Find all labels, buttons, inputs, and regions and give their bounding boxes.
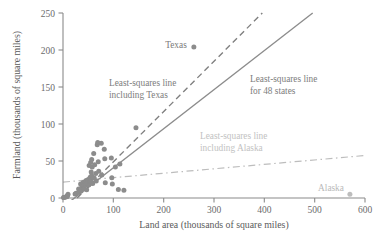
annotation-including-alaska: Least-squares line including Alaska <box>200 131 267 153</box>
y-axis-title: Farmland (thousands of square miles) <box>11 31 23 179</box>
y-tick-label: 100 <box>41 120 56 130</box>
x-axis-title: Land area (thousands of square miles) <box>139 219 288 231</box>
data-point <box>109 156 114 161</box>
data-point <box>99 173 104 178</box>
annotation-line-1: Least-squares line <box>200 131 267 141</box>
x-tick-label: 0 <box>61 205 66 215</box>
data-point <box>110 181 115 186</box>
x-tick-label: 600 <box>358 205 373 215</box>
annotation-48-states: Least-squares line for 48 states <box>250 74 317 96</box>
data-point <box>117 161 122 166</box>
data-point <box>133 125 138 130</box>
annotation-line-2: including Texas <box>109 90 168 100</box>
x-tick-label: 300 <box>207 205 222 215</box>
data-point <box>84 187 89 192</box>
plot-svg: 0 50 100 150 200 250 0 100 200 300 400 5… <box>0 0 381 249</box>
scatter-plot-figure: 0 50 100 150 200 250 0 100 200 300 400 5… <box>0 0 381 249</box>
fit-line-48-states <box>63 13 313 207</box>
data-point <box>89 157 94 162</box>
annotation-line-1: Least-squares line <box>109 78 176 88</box>
point-label-texas: Texas <box>165 40 187 50</box>
annotation-line-1: Least-squares line <box>250 74 317 84</box>
fit-lines-group <box>63 13 365 207</box>
data-point <box>116 187 121 192</box>
data-point <box>121 188 126 193</box>
x-tick-label: 400 <box>257 205 272 215</box>
data-point <box>103 180 108 185</box>
y-tick-label: 150 <box>41 83 56 93</box>
data-point <box>191 45 196 50</box>
x-tick-label: 500 <box>308 205 323 215</box>
annotation-line-2: for 48 states <box>250 86 296 96</box>
data-point <box>91 151 96 156</box>
y-tick-marks <box>59 13 64 198</box>
y-tick-label: 200 <box>41 46 56 56</box>
data-point <box>102 147 107 152</box>
data-point <box>99 141 104 146</box>
x-tick-marks <box>63 198 365 203</box>
y-tick-label: 0 <box>50 194 55 204</box>
x-tick-labels: 0 100 200 300 400 500 600 <box>61 205 373 215</box>
annotation-line-2: including Alaska <box>200 143 263 153</box>
point-label-alaska: Alaska <box>318 183 344 193</box>
y-tick-label: 50 <box>46 157 56 167</box>
y-tick-labels: 0 50 100 150 200 250 <box>41 9 56 204</box>
fit-line-including-alaska <box>63 156 365 183</box>
data-point <box>113 164 118 169</box>
data-point <box>94 178 99 183</box>
x-tick-label: 200 <box>157 205 172 215</box>
data-point <box>347 192 352 197</box>
data-point <box>66 192 71 197</box>
y-tick-label: 250 <box>41 9 56 19</box>
data-point <box>96 159 101 164</box>
data-point <box>102 156 107 161</box>
data-point <box>109 175 114 180</box>
x-tick-label: 100 <box>106 205 121 215</box>
annotation-including-texas: Least-squares line including Texas <box>109 78 176 100</box>
